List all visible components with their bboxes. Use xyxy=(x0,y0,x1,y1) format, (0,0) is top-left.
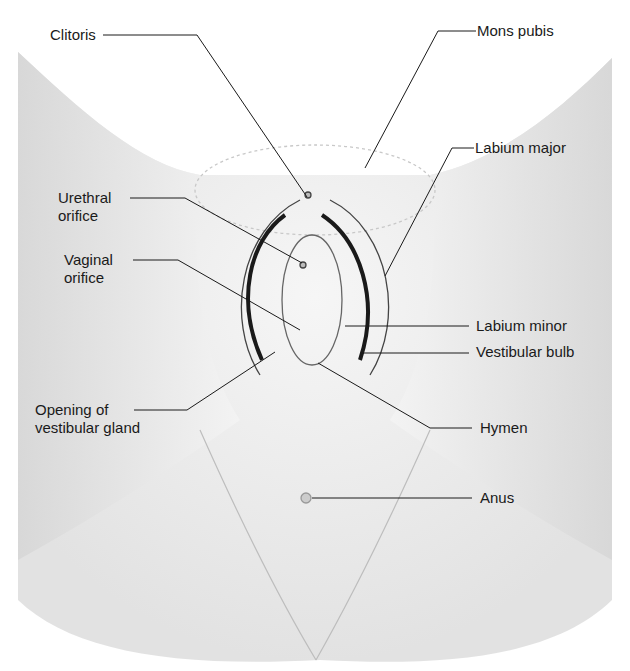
label-clitoris: Clitoris xyxy=(50,26,96,44)
label-labium-minor: Labium minor xyxy=(476,317,567,335)
label-vaginal-orifice: Vaginal orifice xyxy=(64,251,113,287)
label-labium-major: Labium major xyxy=(475,139,566,157)
label-anus: Anus xyxy=(480,489,514,507)
leader-mons-pubis xyxy=(365,31,476,168)
label-opening-vestibular-gland: Opening of vestibular gland xyxy=(35,401,140,437)
label-hymen: Hymen xyxy=(480,419,528,437)
anatomy-diagram: Clitoris Mons pubis Labium major Urethra… xyxy=(0,0,630,671)
label-urethral-orifice: Urethral orifice xyxy=(58,189,111,225)
label-vestibular-bulb: Vestibular bulb xyxy=(476,343,574,361)
label-mons-pubis: Mons pubis xyxy=(477,22,554,40)
anus-marker xyxy=(301,493,311,503)
illustration xyxy=(0,0,630,671)
